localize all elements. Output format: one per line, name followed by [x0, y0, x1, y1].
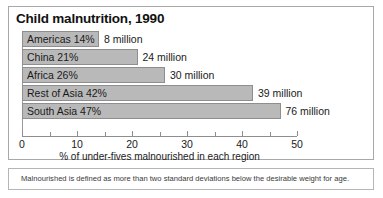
- x-tick-major: [187, 131, 188, 136]
- plot-area: Americas 14%8 millionChina 21%24 million…: [22, 31, 342, 123]
- bar-row[interactable]: China 21%24 million: [22, 49, 352, 65]
- x-tick-minor: [270, 132, 271, 136]
- bar-value-label: 8 million: [104, 32, 143, 46]
- bar-row[interactable]: Americas 14%8 million: [22, 31, 352, 47]
- bar-label: China 21%: [27, 50, 78, 64]
- x-tick-major: [297, 131, 298, 136]
- x-tick-major: [22, 131, 23, 136]
- x-tick-minor: [215, 132, 216, 136]
- bar-row[interactable]: South Asia 47%76 million: [22, 103, 352, 119]
- bar-label: South Asia 47%: [27, 104, 101, 118]
- bar-label: Rest of Asia 42%: [27, 86, 107, 100]
- page-title: Child malnutrition, 1990: [16, 11, 164, 26]
- bar-value-label: 30 million: [170, 68, 214, 82]
- x-tick-label: 10: [71, 138, 83, 150]
- bar-label: Africa 26%: [27, 68, 78, 82]
- x-tick-major: [77, 131, 78, 136]
- x-tick-label: 50: [291, 138, 303, 150]
- x-tick-major: [132, 131, 133, 136]
- bar-label: Americas 14%: [27, 32, 95, 46]
- x-tick-minor: [50, 132, 51, 136]
- chart-figure: Child malnutrition, 1990 Americas 14%8 m…: [0, 0, 383, 198]
- x-tick-minor: [105, 132, 106, 136]
- x-tick-minor: [160, 132, 161, 136]
- x-axis-label: % of under-fives malnourished in each re…: [22, 151, 297, 162]
- bar-value-label: 39 million: [258, 86, 302, 100]
- x-tick-label: 20: [126, 138, 138, 150]
- x-tick-label: 40: [236, 138, 248, 150]
- bar-value-label: 76 million: [286, 104, 330, 118]
- x-axis-line: [22, 136, 297, 137]
- bar-value-label: 24 million: [143, 50, 187, 64]
- footnote-text: Malnourished is defined as more than two…: [21, 174, 349, 183]
- x-tick-label: 30: [181, 138, 193, 150]
- x-tick-major: [242, 131, 243, 136]
- x-tick-label: 0: [19, 138, 25, 150]
- bar-row[interactable]: Africa 26%30 million: [22, 67, 352, 83]
- footnote-box: Malnourished is defined as more than two…: [8, 168, 374, 190]
- bar-row[interactable]: Rest of Asia 42%39 million: [22, 85, 352, 101]
